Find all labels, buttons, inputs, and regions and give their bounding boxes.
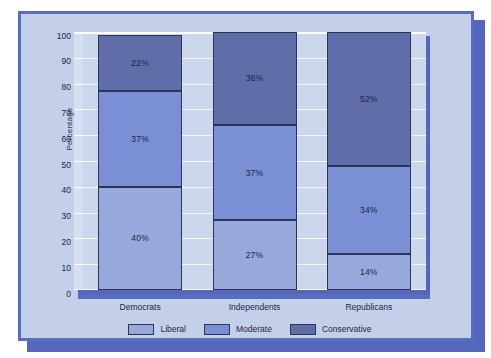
chart-region: Percentage 0102030405060708090100 40%37%…	[21, 14, 471, 338]
x-axis-category-label: Democrats	[90, 302, 190, 312]
bar-segment-value-label: 27%	[246, 250, 264, 260]
legend-entry[interactable]: Liberal	[128, 324, 186, 335]
bar-segment[interactable]: 14%	[327, 254, 411, 290]
bar-segment[interactable]: 34%	[327, 166, 411, 254]
y-axis-tick-label: 100	[45, 31, 71, 42]
y-axis-tick-label: 50	[45, 160, 71, 171]
legend-color-swatch	[204, 324, 230, 335]
bar-column[interactable]: 27%37%36%	[213, 32, 297, 290]
bar-segment-value-label: 40%	[131, 233, 149, 243]
y-axis-tick-label: 60	[45, 134, 71, 145]
x-axis-category-labels: DemocratsIndependentsRepublicans	[74, 302, 426, 316]
chart-figure: Percentage 0102030405060708090100 40%37%…	[0, 0, 491, 358]
y-axis-tick-label: 40	[45, 185, 71, 196]
chart-legend: LiberalModerateConservative	[74, 320, 426, 338]
y-axis-tick-label: 0	[45, 289, 71, 300]
x-axis-category-label: Independents	[205, 302, 305, 312]
x-axis-line	[78, 294, 430, 299]
bar-segment[interactable]: 27%	[213, 220, 297, 290]
y-axis-tick-label: 20	[45, 237, 71, 248]
bar-column[interactable]: 40%37%22%	[98, 32, 182, 290]
bar-segment-value-label: 37%	[131, 134, 149, 144]
y-axis-tick-labels: 0102030405060708090100	[45, 32, 71, 290]
bar-segment-value-label: 36%	[246, 73, 264, 83]
bar-segment[interactable]: 36%	[213, 32, 297, 125]
bar-segment-value-label: 22%	[131, 58, 149, 68]
chart-panel: Percentage 0102030405060708090100 40%37%…	[18, 11, 474, 341]
bar-segment-value-label: 14%	[360, 267, 378, 277]
legend-entry[interactable]: Conservative	[290, 324, 372, 335]
bar-segment[interactable]: 37%	[213, 125, 297, 220]
y-axis-tick-label: 10	[45, 263, 71, 274]
legend-color-swatch	[128, 324, 154, 335]
y-axis-tick-label: 90	[45, 56, 71, 67]
bar-segment-value-label: 52%	[360, 94, 378, 104]
y-axis-tick-label: 30	[45, 211, 71, 222]
bar-segment-value-label: 34%	[360, 205, 378, 215]
legend-label: Moderate	[236, 324, 272, 334]
legend-color-swatch	[290, 324, 316, 335]
bar-column[interactable]: 14%34%52%	[327, 32, 411, 290]
y-axis-tick-label: 70	[45, 108, 71, 119]
plot-area: 40%37%22%27%37%36%14%34%52%	[74, 32, 426, 290]
bar-segment[interactable]: 22%	[98, 35, 182, 92]
y-axis-tick-label: 80	[45, 82, 71, 93]
legend-label: Liberal	[160, 324, 186, 334]
legend-entry[interactable]: Moderate	[204, 324, 272, 335]
bar-series-group: 40%37%22%27%37%36%14%34%52%	[74, 32, 426, 290]
bar-segment[interactable]: 40%	[98, 187, 182, 290]
bar-segment[interactable]: 52%	[327, 32, 411, 166]
bar-segment-value-label: 37%	[246, 168, 264, 178]
bar-segment[interactable]: 37%	[98, 91, 182, 186]
legend-label: Conservative	[322, 324, 372, 334]
x-axis-category-label: Republicans	[319, 302, 419, 312]
